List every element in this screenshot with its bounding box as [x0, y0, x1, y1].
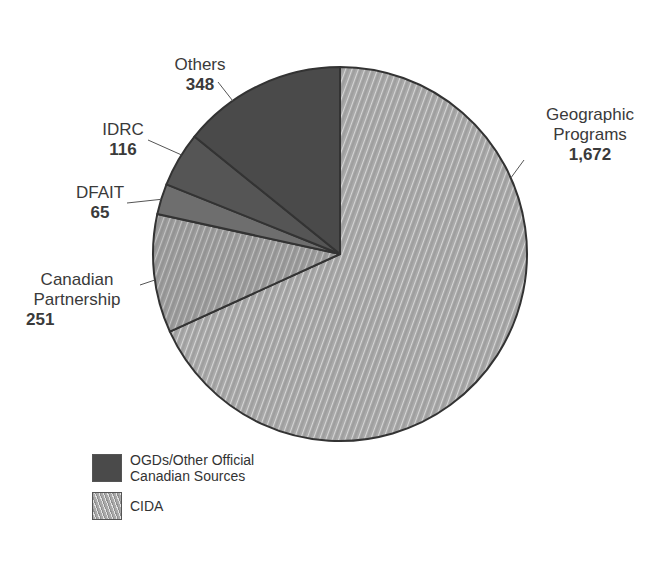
slice-value: 1,672 — [530, 145, 649, 165]
slice-name: IDRC — [88, 120, 158, 140]
slice-name: Geographic — [530, 105, 649, 125]
legend-label-line: OGDs/Other Official — [130, 452, 254, 468]
leader-line-geographic-programs — [511, 160, 524, 178]
slice-name: Others — [160, 55, 240, 75]
slice-value: 116 — [88, 140, 158, 160]
legend-swatch-hatched — [92, 492, 122, 520]
slice-value: 65 — [60, 203, 140, 223]
slice-name: Programs — [530, 125, 649, 145]
slice-name: Canadian — [22, 270, 132, 290]
slice-label-canadian-partnership: Canadian Partnership 251 — [22, 270, 132, 330]
legend-label: CIDA — [130, 498, 163, 514]
slice-value: 251 — [22, 310, 132, 330]
legend-label: OGDs/Other Official Canadian Sources — [130, 452, 254, 484]
slice-label-idrc: IDRC 116 — [88, 120, 158, 160]
leader-line-canadian-partnership — [140, 280, 155, 285]
legend-item-cida: CIDA — [92, 492, 163, 520]
legend-label-line: Canadian Sources — [130, 468, 245, 484]
slice-name: Partnership — [22, 290, 132, 310]
slice-label-geographic-programs: Geographic Programs 1,672 — [530, 105, 649, 165]
legend-swatch-dark — [92, 454, 122, 482]
slice-label-others: Others 348 — [160, 55, 240, 95]
slice-name: DFAIT — [60, 183, 140, 203]
legend-item-ogds: OGDs/Other Official Canadian Sources — [92, 452, 254, 484]
slice-value: 348 — [160, 75, 240, 95]
slice-label-dfait: DFAIT 65 — [60, 183, 140, 223]
